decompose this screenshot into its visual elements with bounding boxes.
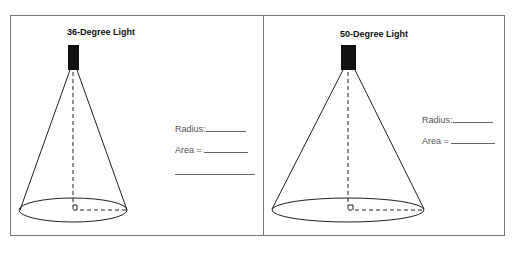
radius-answer-blank[interactable] bbox=[206, 123, 246, 132]
panel-title-36: 36-Degree Light bbox=[67, 27, 135, 37]
area-label-50: Area = bbox=[422, 135, 495, 146]
radius-answer-blank[interactable] bbox=[453, 114, 493, 123]
diagram-drawings bbox=[0, 0, 518, 257]
extra-answer-blank[interactable] bbox=[175, 174, 255, 175]
area-answer-blank[interactable] bbox=[204, 144, 248, 153]
right-angle-mark bbox=[73, 205, 77, 210]
panel-title-50: 50-Degree Light bbox=[340, 29, 408, 39]
radius-text: Radius: bbox=[175, 124, 206, 134]
area-label-36: Area = bbox=[175, 144, 248, 155]
light-50-diagram bbox=[272, 45, 424, 222]
radius-text: Radius: bbox=[422, 115, 453, 125]
area-answer-blank[interactable] bbox=[451, 135, 495, 144]
light-fixture-icon bbox=[68, 45, 79, 70]
radius-label-36: Radius: bbox=[175, 123, 246, 134]
area-text: Area = bbox=[175, 145, 202, 155]
light-36-diagram bbox=[19, 45, 127, 222]
area-text: Area = bbox=[422, 136, 449, 146]
radius-label-50: Radius: bbox=[422, 114, 493, 125]
right-angle-mark bbox=[348, 205, 353, 210]
light-fixture-icon bbox=[341, 45, 356, 70]
